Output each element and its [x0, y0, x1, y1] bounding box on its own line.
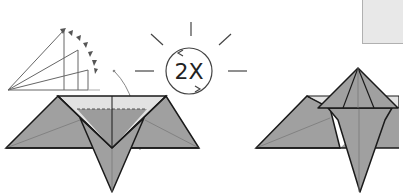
step-left: 2X: [6, 22, 247, 192]
step-right: [256, 68, 399, 192]
fan-fold-icon: [8, 30, 100, 90]
repeat-2x-icon: 2X: [135, 22, 247, 94]
repeat-label: 2X: [174, 59, 203, 84]
fold-arrowheads-icon: [60, 28, 98, 74]
origami-model-left: [6, 96, 199, 192]
origami-model-right: [256, 68, 399, 192]
